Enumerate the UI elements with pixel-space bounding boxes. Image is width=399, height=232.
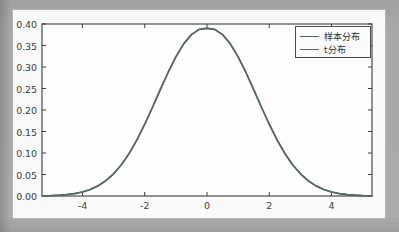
- y-tick-label: 0.10: [13, 148, 37, 159]
- y-tick-label: 0.25: [13, 83, 37, 94]
- y-tick-label: 0.30: [13, 62, 37, 73]
- y-tick-label: 0.00: [13, 191, 37, 202]
- y-tick-label: 0.40: [13, 19, 37, 30]
- y-tick-label: 0.20: [13, 105, 37, 116]
- legend-label-t: t分布: [324, 43, 346, 56]
- legend: 样本分布 t分布: [295, 26, 371, 58]
- legend-entry-sample: 样本分布: [300, 30, 360, 43]
- y-tick-label: 0.15: [13, 126, 37, 137]
- legend-line-sample-icon: [300, 36, 319, 37]
- legend-label-sample: 样本分布: [324, 30, 360, 43]
- x-tick-label: 4: [329, 200, 335, 211]
- x-tick-label: -2: [140, 200, 149, 211]
- x-tick-label: -4: [78, 200, 87, 211]
- legend-entry-t: t分布: [300, 43, 346, 56]
- x-tick-label: 2: [266, 200, 272, 211]
- legend-line-t-icon: [300, 49, 319, 50]
- x-tick-label: 0: [204, 200, 210, 211]
- y-tick-label: 0.05: [13, 169, 37, 180]
- figure-card: 0.000.050.100.150.200.250.300.350.40 -4-…: [13, 10, 385, 218]
- plot-region: 0.000.050.100.150.200.250.300.350.40 -4-…: [13, 10, 385, 218]
- y-tick-label: 0.35: [13, 40, 37, 51]
